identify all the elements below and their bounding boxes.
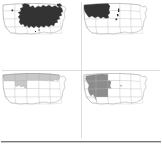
map-bottom-left: [0, 70, 81, 140]
map-top-left: [0, 0, 81, 70]
bottom-rule-shadow: [1, 142, 161, 143]
shaded-region-top-right: [84, 4, 110, 19]
map-panel-figure: [0, 0, 162, 148]
panel-bottom-left[interactable]: [0, 70, 81, 140]
map-top-right: [81, 0, 162, 70]
panel-top-left[interactable]: [0, 0, 81, 70]
horizontal-panel-divider: [2, 70, 160, 71]
panel-top-right[interactable]: [81, 0, 162, 70]
panel-bottom-right[interactable]: [81, 70, 162, 140]
outlier-patches-bottom-right: [121, 85, 122, 86]
map-bottom-right: [81, 70, 162, 140]
